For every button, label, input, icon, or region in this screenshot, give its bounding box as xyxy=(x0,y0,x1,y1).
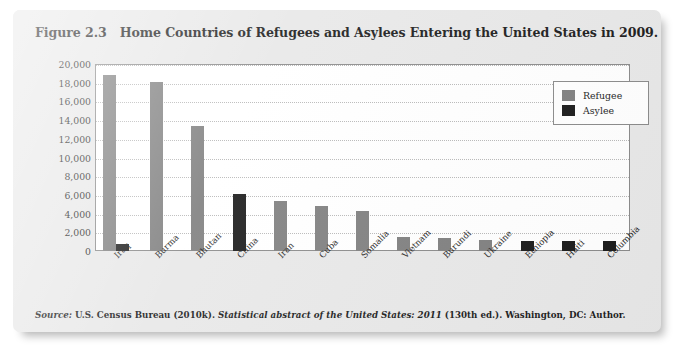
figure-caption-text: Home Countries of Refugees and Asylees E… xyxy=(120,25,658,40)
source-work-title: Statistical abstract of the United State… xyxy=(218,310,442,320)
figure-caption: Figure 2.3Home Countries of Refugees and… xyxy=(35,25,647,40)
bar-group xyxy=(218,64,259,251)
bar-group xyxy=(342,64,383,251)
y-axis-tick-label: 10,000 xyxy=(35,152,91,163)
bar-group xyxy=(301,64,342,251)
bar-refugee xyxy=(191,126,204,251)
bar-refugee xyxy=(150,82,163,251)
figure-card: Figure 2.3Home Countries of Refugees and… xyxy=(13,10,661,332)
source-publisher: U.S. Census Bureau (2010k). xyxy=(75,310,215,320)
y-axis-tick-label: 20,000 xyxy=(35,59,91,70)
y-axis-tick-label: 0 xyxy=(35,246,91,257)
y-axis-tick-label: 8,000 xyxy=(35,171,91,182)
chart-plot-area: 02,0004,0006,0008,00010,00012,00014,0001… xyxy=(35,56,645,304)
bar-asylee xyxy=(233,194,246,251)
y-axis-tick-label: 12,000 xyxy=(35,133,91,144)
source-label: Source: xyxy=(35,310,72,320)
bar-group xyxy=(548,64,589,251)
y-axis-tick-label: 14,000 xyxy=(35,115,91,126)
bar-group xyxy=(507,64,548,251)
bar-group xyxy=(383,64,424,251)
bar-refugee xyxy=(103,75,116,251)
bar-group xyxy=(136,64,177,251)
y-axis-tick-label: 16,000 xyxy=(35,96,91,107)
y-axis-tick-label: 2,000 xyxy=(35,227,91,238)
figure-number: Figure 2.3 xyxy=(35,25,107,40)
source-note: Source: U.S. Census Bureau (2010k). Stat… xyxy=(35,310,647,320)
bar-group xyxy=(95,64,136,251)
bar-group xyxy=(424,64,465,251)
bar-group xyxy=(589,64,630,251)
y-axis-tick-label: 4,000 xyxy=(35,208,91,219)
bar-group xyxy=(465,64,506,251)
y-axis-tick-label: 6,000 xyxy=(35,189,91,200)
source-edition: (130th ed.). Washington, DC: Author. xyxy=(445,310,626,320)
bars-layer xyxy=(95,64,630,251)
y-axis-tick-labels: 02,0004,0006,0008,00010,00012,00014,0001… xyxy=(35,64,91,251)
y-axis-tick-label: 18,000 xyxy=(35,77,91,88)
x-axis-category-labels: IraqBurmaBhutanChinaIranCubaSomaliaVietn… xyxy=(95,253,630,305)
bar-group xyxy=(260,64,301,251)
bar-group xyxy=(177,64,218,251)
